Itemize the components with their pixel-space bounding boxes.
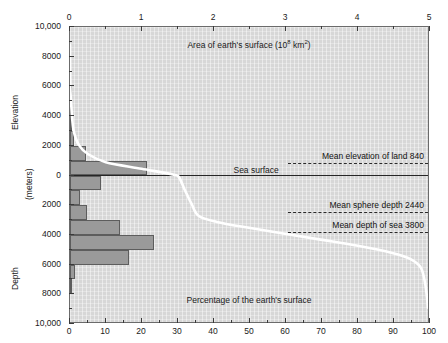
x-axis-tick-label-bottom: 50 xyxy=(244,327,253,336)
x-axis-tick-label-top: 2 xyxy=(211,13,216,22)
x-axis-tick-label-bottom: 60 xyxy=(280,327,289,336)
plot-area: Area of earth's surface (108 km2) Percen… xyxy=(69,26,429,323)
x-axis-tick-bottom xyxy=(285,318,286,323)
x-axis-tick-top xyxy=(213,26,214,31)
annotation-label: Mean depth of sea 3800 xyxy=(332,221,424,230)
y-axis-minor-tick xyxy=(69,130,72,131)
y-axis-minor-tick xyxy=(69,219,72,220)
top-axis-title: Area of earth's surface (108 km2) xyxy=(187,41,310,51)
y-axis-minor-tick xyxy=(69,249,72,250)
y-axis-minor-tick xyxy=(69,308,72,309)
x-axis-tick-bottom xyxy=(321,318,322,323)
y-axis-tick-label: 4000 xyxy=(42,111,61,120)
x-axis-tick-label-bottom: 30 xyxy=(172,327,181,336)
y-axis-tick-label: 6000 xyxy=(42,81,61,90)
x-axis-minor-tick-top xyxy=(249,26,250,29)
x-axis-minor-tick-top xyxy=(321,26,322,29)
x-axis-tick-label-bottom: 100 xyxy=(422,327,436,336)
x-axis-tick-label-top: 5 xyxy=(427,13,432,22)
y-axis-tick xyxy=(69,85,74,86)
x-axis-minor-tick-bottom xyxy=(411,320,412,323)
y-axis-tick-label: 2000 xyxy=(42,200,61,209)
y-axis-tick xyxy=(69,56,74,57)
x-axis-tick-bottom xyxy=(429,318,430,323)
y-axis-tick xyxy=(69,175,74,176)
x-axis-tick-label-bottom: 20 xyxy=(136,327,145,336)
x-axis-tick-label-top: 0 xyxy=(67,13,72,22)
x-axis-tick-top xyxy=(357,26,358,31)
x-axis-tick-bottom xyxy=(393,318,394,323)
x-axis-minor-tick-bottom xyxy=(123,320,124,323)
y-axis-tick-label: 8000 xyxy=(42,289,61,298)
annotation-rule xyxy=(288,163,428,164)
x-axis-minor-tick-top xyxy=(105,26,106,29)
y-axis-minor-tick xyxy=(69,41,72,42)
x-axis-tick-top xyxy=(285,26,286,31)
y-axis-tick xyxy=(69,293,74,294)
x-axis-minor-tick-bottom xyxy=(303,320,304,323)
y-axis-tick xyxy=(69,26,74,27)
top-axis-title-text: Area of earth's surface (10 xyxy=(187,40,287,50)
y-axis-label-units: (meters) xyxy=(25,168,34,200)
y-axis-tick xyxy=(69,264,74,265)
y-axis-tick xyxy=(69,145,74,146)
x-axis-tick-bottom xyxy=(177,318,178,323)
x-axis-tick-bottom xyxy=(213,318,214,323)
y-axis-minor-tick xyxy=(69,278,72,279)
x-axis-tick-label-top: 4 xyxy=(355,13,360,22)
y-axis-tick-label: 2000 xyxy=(42,141,61,150)
top-axis-title-close: ) xyxy=(308,40,311,50)
y-axis-tick-label: 0 xyxy=(56,170,61,179)
y-axis-minor-tick xyxy=(69,71,72,72)
x-axis-minor-tick-bottom xyxy=(375,320,376,323)
x-axis-tick-bottom xyxy=(141,318,142,323)
annotation-label: Mean sphere depth 2440 xyxy=(329,201,424,210)
x-axis-tick-label-top: 1 xyxy=(139,13,144,22)
y-axis-tick-label: 10,000 xyxy=(35,319,61,328)
x-axis-tick-label-bottom: 70 xyxy=(316,327,325,336)
x-axis-tick-bottom xyxy=(249,318,250,323)
annotation-rule xyxy=(288,232,428,233)
x-axis-tick-label-bottom: 90 xyxy=(388,327,397,336)
y-axis-minor-tick xyxy=(69,189,72,190)
x-axis-tick-label-bottom: 80 xyxy=(352,327,361,336)
y-axis-tick xyxy=(69,115,74,116)
x-axis-tick-top xyxy=(141,26,142,31)
x-axis-minor-tick-bottom xyxy=(87,320,88,323)
annotation-rule xyxy=(288,212,428,213)
x-axis-tick-label-bottom: 0 xyxy=(67,327,72,336)
annotation-label: Mean elevation of land 840 xyxy=(322,152,424,161)
x-axis-tick-label-bottom: 40 xyxy=(208,327,217,336)
bottom-axis-title: Percentage of the earth's surface xyxy=(187,296,312,306)
y-axis-tick-label: 10,000 xyxy=(35,22,61,31)
x-axis-minor-tick-bottom xyxy=(267,320,268,323)
y-axis-tick-label: 4000 xyxy=(42,230,61,239)
hypsographic-curve-figure: Area of earth's surface (108 km2) Percen… xyxy=(0,0,448,343)
x-axis-minor-tick-bottom xyxy=(159,320,160,323)
x-axis-tick-label-top: 3 xyxy=(283,13,288,22)
y-axis-tick xyxy=(69,323,74,324)
x-axis-minor-tick-top xyxy=(393,26,394,29)
y-axis-tick-label: 8000 xyxy=(42,51,61,60)
x-axis-minor-tick-bottom xyxy=(195,320,196,323)
x-axis-minor-tick-bottom xyxy=(339,320,340,323)
x-axis-minor-tick-top xyxy=(177,26,178,29)
y-axis-tick-label: 6000 xyxy=(42,259,61,268)
x-axis-tick-label-bottom: 10 xyxy=(100,327,109,336)
sea-surface-label: Sea surface xyxy=(233,166,278,176)
x-axis-tick-bottom xyxy=(357,318,358,323)
x-axis-minor-tick-bottom xyxy=(231,320,232,323)
y-axis-label-depth: Depth xyxy=(11,267,20,290)
x-axis-tick-bottom xyxy=(105,318,106,323)
y-axis-minor-tick xyxy=(69,160,72,161)
y-axis-tick xyxy=(69,204,74,205)
y-axis-label-elevation: Elevation xyxy=(11,95,20,130)
x-axis-tick-top xyxy=(429,26,430,31)
top-axis-title-tail: km xyxy=(291,40,305,50)
y-axis-tick xyxy=(69,234,74,235)
y-axis-minor-tick xyxy=(69,100,72,101)
